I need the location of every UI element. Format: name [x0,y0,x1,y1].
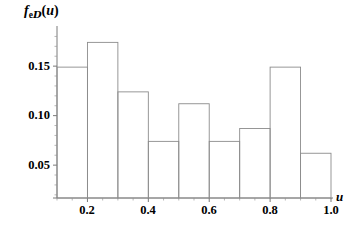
x-axis-major-ticks [87,198,331,202]
histogram-figure: feD(u) u 0.15 0.10 0.05 0.2 0.4 0.6 0.8 … [0,0,356,237]
histogram-bars [57,42,331,198]
y-axis-major-ticks [53,66,57,165]
plot-area [0,0,356,237]
histogram-bar [209,141,239,198]
histogram-bar [301,153,331,198]
histogram-bar [179,104,209,198]
histogram-bar [57,67,87,198]
histogram-bar [240,129,270,199]
histogram-bar [118,92,148,198]
histogram-bar [270,67,300,198]
axes-group [53,26,333,202]
histogram-bar [148,141,178,198]
histogram-bar [87,42,117,198]
